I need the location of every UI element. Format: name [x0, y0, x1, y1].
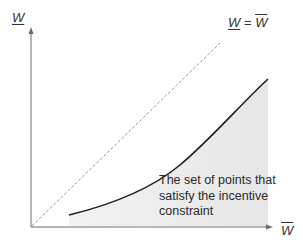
y-axis-label: W	[12, 11, 24, 24]
diagonal-label-left: W	[228, 15, 240, 30]
diagonal-line-label: W = W	[228, 16, 267, 29]
region-annotation-line-1: The set of points that	[159, 173, 299, 189]
region-annotation: The set of points that satisfy the incen…	[159, 173, 299, 220]
region-annotation-line-3: constraint	[159, 204, 299, 220]
diagonal-label-equals: =	[244, 15, 252, 30]
x-axis-arrowhead-icon	[266, 225, 273, 230]
diagonal-label-right: W	[255, 15, 267, 30]
region-annotation-line-2: satisfy the incentive	[159, 189, 299, 205]
x-axis-label: W	[281, 224, 293, 237]
y-axis-arrowhead-icon	[29, 27, 34, 34]
